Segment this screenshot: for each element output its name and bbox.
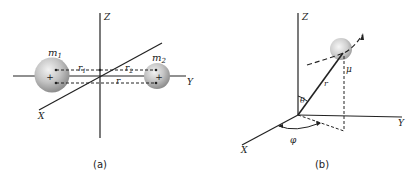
x-axis-label-a: X	[37, 111, 45, 121]
panel-b: Z Y X μ r θ φ (b)	[240, 12, 405, 170]
r2-end-dot	[155, 69, 158, 72]
diagram-canvas: + + Z Y X m1 m2 r1 r2 r (a)	[0, 0, 417, 177]
center-mark-2: +	[155, 72, 163, 82]
caption-b: (b)	[315, 159, 329, 170]
z-axis-label-a: Z	[103, 12, 111, 22]
r1-end-dot	[99, 69, 102, 72]
theta-label: θ	[300, 96, 305, 105]
r-label: r	[116, 76, 121, 86]
r1-start-dot	[55, 69, 58, 72]
y-axis-b	[298, 115, 402, 117]
mass-2-label: m2	[152, 52, 166, 65]
r-end-dot	[155, 82, 158, 85]
panel-a: + + Z Y X m1 m2 r1 r2 r (a)	[13, 12, 194, 170]
center-mark-1: +	[46, 72, 54, 82]
phi-arc	[279, 123, 320, 129]
z-axis-label-b: Z	[301, 12, 309, 22]
r2-label: r2	[125, 63, 133, 74]
r1-label: r1	[78, 63, 86, 74]
caption-a: (a)	[93, 159, 107, 170]
mu-label: μ	[346, 64, 352, 74]
orbit-arrow	[360, 33, 364, 40]
phi-label: φ	[290, 135, 297, 145]
radius-label: r	[324, 79, 329, 88]
x-axis-label-b: X	[240, 145, 248, 155]
r-start-dot	[55, 82, 58, 85]
y-axis-label-b: Y	[398, 118, 405, 128]
y-axis-label-a: Y	[187, 77, 194, 87]
radius-vector	[298, 53, 343, 115]
